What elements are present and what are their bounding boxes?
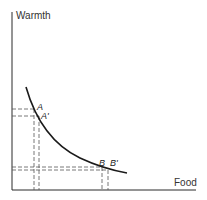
point-label-b-prime: B' [110, 158, 118, 168]
indifference-curve-diagram: Warmth Food A A' B B' [0, 0, 207, 200]
point-label-a-prime: A' [40, 111, 49, 121]
y-axis-label: Warmth [16, 10, 51, 21]
x-axis-label: Food [174, 177, 197, 188]
point-label-b: B [99, 158, 105, 168]
